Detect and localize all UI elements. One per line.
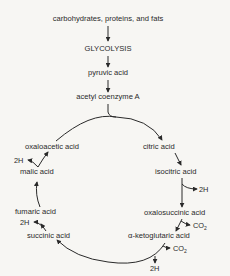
arrow-fumaric-to-malic [36, 182, 40, 207]
arrow-2h-isocitric [182, 184, 197, 189]
arrow-oxalosuccinic-to-ketoglutaric [176, 219, 182, 231]
label-oxalosuccinic-acid: oxalosuccinic acid [144, 208, 205, 217]
label-citric-acid: citric acid [143, 142, 175, 151]
arrow-malic-to-oxaloacetic [38, 152, 48, 167]
label-malic-acid: malic acid [20, 167, 54, 176]
label-succinic-acid: succinic acid [27, 231, 70, 240]
label-2h-malic: 2H [14, 156, 23, 165]
label-carbohydrates-proteins-fats: carbohydrates, proteins, and fats [53, 14, 164, 23]
arrow-2h-malic [28, 160, 38, 167]
label-isocitric-acid: isocitric acid [155, 167, 196, 176]
arrow-citric-to-isocitric [175, 153, 181, 165]
label-co2-oxalosuccinic: CO2 [193, 221, 207, 231]
label-2h-succinic: 2H [20, 218, 29, 227]
arrow-succinic-to-fumaric [41, 224, 46, 231]
label-glycolysis: GLYCOLYSIS [85, 44, 132, 53]
arrow-co2-oxalosuccinic [181, 221, 190, 225]
label-pyruvic-acid: pyruvic acid [88, 68, 128, 77]
label-alpha-ketoglutaric-acid: α-ketoglutaric acid [128, 231, 190, 240]
krebs-cycle-diagram: carbohydrates, proteins, and fats GLYCOL… [0, 0, 230, 276]
acetyl-coa-entry-line [108, 104, 116, 117]
arrow-co2-ketoglutaric [163, 246, 170, 248]
arrow-2h-succinic [34, 222, 42, 226]
label-fumaric-acid: fumaric acid [15, 207, 56, 216]
label-co2-ketoglutaric: CO2 [173, 244, 187, 254]
label-2h-ketoglutaric: 2H [150, 264, 159, 273]
label-2h-isocitric: 2H [199, 185, 208, 194]
label-acetyl-coenzyme-a: acetyl coenzyme A [76, 92, 140, 101]
arc-ketoglutaric-to-succinic [57, 240, 165, 263]
label-oxaloacetic-acid: oxaloacetic acid [25, 142, 79, 151]
arc-oxaloacetic-to-citric [56, 116, 162, 141]
